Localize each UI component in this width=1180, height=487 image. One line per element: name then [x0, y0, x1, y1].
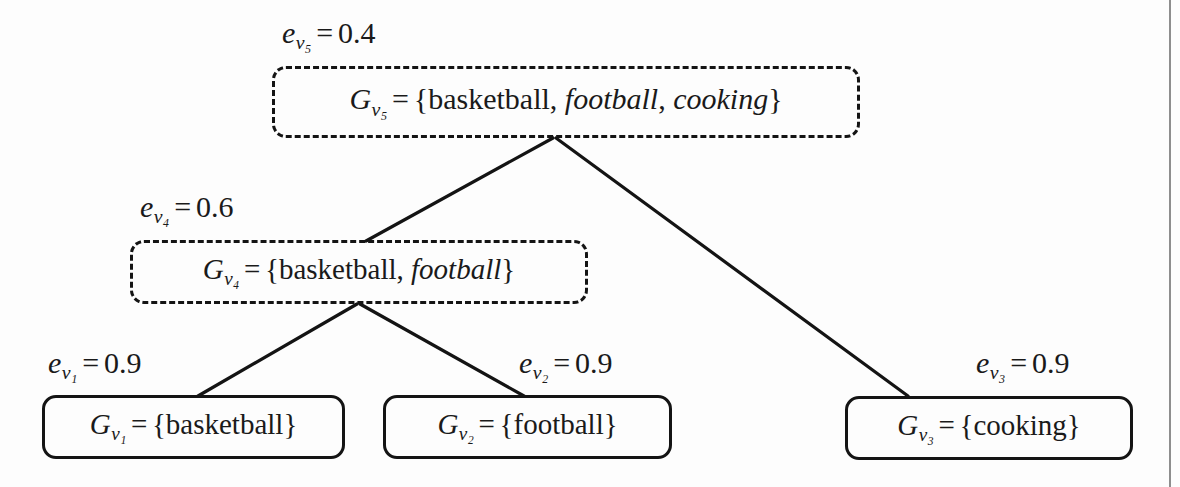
- weight-symbol-v3: e: [976, 346, 989, 379]
- weight-subscript-v1: v₁: [61, 361, 77, 383]
- weight-value-v5: 0.4: [338, 16, 376, 49]
- edge-v4-v1: [198, 304, 357, 396]
- weight-label-v4: ev₄=0.6: [140, 192, 234, 227]
- group-symbol-v4: G: [203, 253, 224, 285]
- weight-label-v1: ev₁=0.9: [48, 348, 142, 383]
- set-member-v4-0: basketball: [279, 253, 397, 285]
- weight-value-v3: 0.9: [1032, 346, 1070, 379]
- node-v2[interactable]: Gv₂={football}: [383, 395, 672, 459]
- weight-relation-v3: =: [1006, 346, 1033, 379]
- set-open-brace-v4: {: [265, 253, 279, 285]
- group-relation-v5: =: [387, 82, 414, 115]
- weight-symbol-v1: e: [48, 346, 61, 379]
- weight-value-v1: 0.9: [104, 346, 142, 379]
- weight-subscript-v5: v₅: [295, 31, 311, 53]
- set-open-brace-v1: {: [152, 408, 166, 440]
- weight-subscript-v3: v₃: [989, 361, 1005, 383]
- set-close-brace-v4: }: [501, 253, 515, 285]
- set-open-brace-v5: {: [414, 82, 428, 115]
- set-member-v1-0: basketball: [166, 408, 284, 440]
- weight-relation-v2: =: [549, 346, 576, 379]
- weight-symbol-v2: e: [519, 346, 532, 379]
- group-symbol-v2: G: [437, 408, 458, 440]
- group-relation-v2: =: [474, 408, 500, 440]
- group-relation-v4: =: [239, 253, 265, 285]
- group-relation-v3: =: [934, 409, 960, 441]
- weight-subscript-v4: v₄: [153, 205, 169, 227]
- weight-value-v4: 0.6: [196, 190, 234, 223]
- set-member-v4-1: football: [411, 253, 501, 285]
- set-member-v5-0: basketball: [428, 82, 550, 115]
- group-subscript-v1: v₁: [111, 423, 127, 444]
- group-symbol-v5: G: [349, 82, 371, 115]
- group-relation-v1: =: [126, 408, 152, 440]
- weight-label-v3: ev₃=0.9: [976, 348, 1070, 383]
- node-v4[interactable]: Gv₄={basketball, football}: [130, 240, 588, 304]
- edge-v5-v4: [366, 138, 553, 241]
- node-v1[interactable]: Gv₁={basketball}: [42, 395, 345, 459]
- edge-v4-v2: [360, 304, 524, 396]
- set-member-v2-0: football: [514, 408, 604, 440]
- set-member-v5-2: cooking: [673, 82, 768, 115]
- weight-symbol-v4: e: [140, 190, 153, 223]
- group-subscript-v3: v₃: [918, 424, 934, 445]
- group-symbol-v3: G: [897, 409, 918, 441]
- group-subscript-v4: v₄: [224, 268, 240, 289]
- set-close-brace-v3: }: [1067, 409, 1081, 441]
- weight-symbol-v5: e: [282, 16, 295, 49]
- set-close-brace-v1: }: [283, 408, 297, 440]
- set-open-brace-v2: {: [500, 408, 514, 440]
- weight-label-v2: ev₂=0.9: [519, 348, 613, 383]
- weight-label-v5: ev₅=0.4: [282, 18, 376, 53]
- weight-value-v2: 0.9: [575, 346, 613, 379]
- group-symbol-v1: G: [90, 408, 111, 440]
- group-subscript-v2: v₂: [458, 423, 474, 444]
- group-subscript-v5: v₅: [371, 98, 387, 120]
- node-v3[interactable]: Gv₃={cooking}: [845, 396, 1133, 460]
- set-member-v3-0: cooking: [973, 409, 1066, 441]
- set-close-brace-v2: }: [604, 408, 618, 440]
- diagram-canvas: ev₅=0.4 Gv₅={basketball, football, cooki…: [0, 0, 1180, 487]
- weight-subscript-v2: v₂: [532, 361, 548, 383]
- weight-relation-v5: =: [312, 16, 339, 49]
- page-margin-rule: [1169, 0, 1171, 487]
- set-open-brace-v3: {: [959, 409, 973, 441]
- weight-relation-v4: =: [170, 190, 197, 223]
- set-close-brace-v5: }: [768, 82, 782, 115]
- set-member-v5-1: football: [565, 82, 658, 115]
- node-v5[interactable]: Gv₅={basketball, football, cooking}: [272, 66, 860, 138]
- weight-relation-v1: =: [78, 346, 105, 379]
